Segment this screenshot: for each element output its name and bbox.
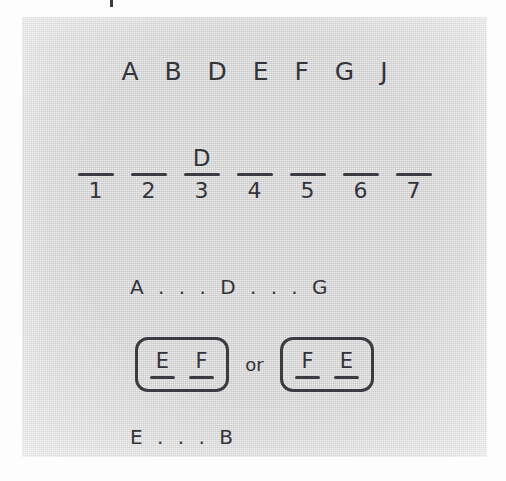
alternative-2-rule-1 — [295, 376, 320, 379]
clue-order-constraint-2: E . . . B — [130, 425, 237, 449]
blank-number-6: 6 — [343, 176, 379, 206]
blank-answer-5 — [290, 145, 326, 171]
blank-number-4: 4 — [237, 176, 273, 206]
alternative-1-rule-2 — [189, 376, 214, 379]
blank-answer-2 — [131, 145, 167, 171]
blank-number-1: 1 — [78, 176, 114, 206]
blank-slot-6[interactable]: 6 — [343, 145, 379, 206]
alternative-1-letter-2-text: F — [195, 350, 207, 372]
blank-slot-2[interactable]: 2 — [131, 145, 167, 206]
alternative-option-1[interactable]: E F — [135, 337, 229, 392]
blank-number-3: 3 — [184, 176, 220, 206]
blank-slot-4[interactable]: 4 — [237, 145, 273, 206]
blank-answer-4 — [237, 145, 273, 171]
alternative-2-letter-2: E — [334, 350, 359, 379]
blank-number-7: 7 — [396, 176, 432, 206]
alternative-2-letter-1-text: F — [301, 350, 313, 372]
alternative-1-letter-1-text: E — [156, 350, 169, 372]
alternative-1-letter-2: F — [189, 350, 214, 379]
letter-bank: A B D E F G J — [22, 57, 487, 86]
blank-answer-6 — [343, 145, 379, 171]
alternative-2-letter-2-text: E — [340, 350, 353, 372]
cropped-text-artifact — [110, 0, 113, 7]
clue-alternative-pair: E F or F E — [135, 337, 374, 392]
clue-order-constraint-1: A . . . D . . . G — [130, 275, 332, 299]
alternative-1-letter-1: E — [150, 350, 175, 379]
alternative-option-2[interactable]: F E — [280, 337, 374, 392]
blank-slot-5[interactable]: 5 — [290, 145, 326, 206]
alternative-2-letter-1: F — [295, 350, 320, 379]
numbered-blanks-row: 1 2 D 3 4 5 6 7 — [22, 145, 487, 206]
blank-answer-1 — [78, 145, 114, 171]
blank-answer-7 — [396, 145, 432, 171]
alternative-2-rule-2 — [334, 376, 359, 379]
blank-number-5: 5 — [290, 176, 326, 206]
blank-slot-7[interactable]: 7 — [396, 145, 432, 206]
blank-answer-3: D — [184, 145, 220, 171]
blank-number-2: 2 — [131, 176, 167, 206]
blank-slot-1[interactable]: 1 — [78, 145, 114, 206]
alternative-1-rule-1 — [150, 376, 175, 379]
alternative-conjunction: or — [229, 354, 280, 375]
puzzle-card: A B D E F G J 1 2 D 3 4 5 — [22, 17, 487, 457]
blank-slot-3[interactable]: D 3 — [184, 145, 220, 206]
